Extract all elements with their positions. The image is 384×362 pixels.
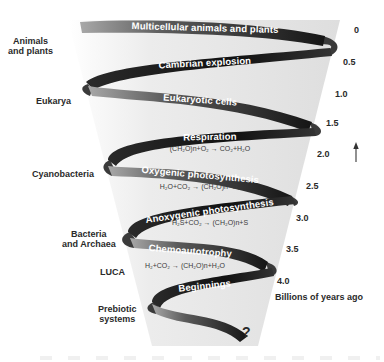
time-tick: 3.0 bbox=[296, 213, 309, 223]
time-tick: 1.0 bbox=[335, 89, 348, 99]
reaction-equation: (CH₂O)n+O₂ → CO₂+H₂O bbox=[170, 145, 251, 153]
group-label-prebiotic: Prebiotic systems bbox=[98, 304, 137, 324]
group-label-luca: LUCA bbox=[100, 267, 125, 277]
group-label-line: Animals bbox=[8, 36, 53, 46]
group-label-line: Eukarya bbox=[36, 96, 71, 106]
group-label-bacteria-archaea: Bacteria and Archaea bbox=[62, 229, 116, 249]
reaction-equation: H₂S+CO₂ → (CH₂O)n+S bbox=[172, 219, 249, 227]
time-tick: 2.0 bbox=[317, 149, 330, 159]
time-tick: 0.5 bbox=[343, 57, 356, 67]
group-label-line: systems bbox=[98, 314, 137, 324]
group-label-cyanobacteria: Cyanobacteria bbox=[32, 169, 94, 179]
reaction-equation: H₂O+CO₂ → (CH₂O)n+O₂ bbox=[160, 183, 241, 191]
time-tick: 4.0 bbox=[277, 276, 290, 286]
time-tick: 0 bbox=[354, 25, 359, 35]
helix-canvas: Multicellular animals and plantsCambrian… bbox=[0, 0, 384, 362]
time-axis-title: Billions of years ago bbox=[275, 292, 363, 302]
origin-question-mark: ? bbox=[242, 324, 251, 340]
group-label-line: Cyanobacteria bbox=[32, 169, 94, 179]
time-tick: 1.5 bbox=[326, 118, 339, 128]
group-label-line: Prebiotic bbox=[98, 304, 137, 314]
cropped-caption bbox=[40, 356, 380, 360]
stage-label: Respiration bbox=[183, 131, 237, 143]
time-tick: 3.5 bbox=[286, 244, 299, 254]
group-label-line: and Archaea bbox=[62, 239, 116, 249]
group-label-animals-plants: Animals and plants bbox=[8, 36, 53, 56]
group-label-line: and plants bbox=[8, 46, 53, 56]
reaction-equation: H₂+CO₂ → (CH₂O)n+H₂O bbox=[145, 262, 226, 270]
time-tick: 2.5 bbox=[306, 181, 319, 191]
up-arrow-icon bbox=[353, 142, 358, 162]
group-label-line: Bacteria bbox=[62, 229, 116, 239]
evolution-diagram: Multicellular animals and plantsCambrian… bbox=[0, 0, 384, 362]
group-label-eukarya: Eukarya bbox=[36, 96, 71, 106]
group-label-line: LUCA bbox=[100, 267, 125, 277]
